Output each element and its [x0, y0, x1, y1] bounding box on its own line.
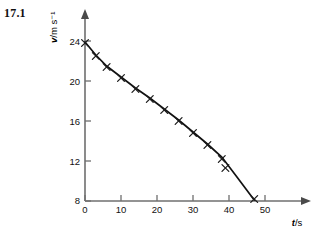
y-tick-label-12: 12	[69, 156, 80, 167]
y-axis-tick-labels: 24 20 16 12 8	[69, 36, 80, 206]
x-tick-label-0: 0	[82, 204, 87, 215]
best-fit-line	[85, 42, 254, 200]
x-tick-label-20: 20	[152, 204, 163, 215]
y-tick-label-20: 20	[69, 76, 80, 87]
y-axis-title: v/m s⁻¹	[48, 12, 59, 43]
y-tick-label-16: 16	[69, 116, 80, 127]
x-axis-title: t/s	[292, 217, 303, 228]
x-axis-tick-labels: 0 10 20 30 40 50	[82, 204, 270, 215]
x-axis-arrow-icon	[301, 197, 311, 205]
x-tick-label-50: 50	[260, 204, 271, 215]
y-axis-ticks	[85, 41, 91, 201]
data-point-marker	[92, 53, 99, 60]
figure-root: 17.1 24 20 16 12 8	[0, 0, 322, 232]
velocity-time-chart: 24 20 16 12 8 0 10 20 30 40 50 t/s	[0, 0, 322, 232]
data-point-markers	[82, 40, 258, 203]
data-point-marker	[222, 165, 229, 172]
y-tick-label-24: 24	[69, 36, 80, 47]
x-tick-label-40: 40	[224, 204, 235, 215]
y-axis-title-unit: /m s⁻¹	[48, 12, 59, 38]
y-tick-label-8: 8	[75, 195, 80, 206]
data-point-marker	[204, 142, 211, 149]
y-axis-arrow-icon	[81, 9, 89, 19]
x-tick-label-10: 10	[116, 204, 127, 215]
x-tick-label-30: 30	[188, 204, 199, 215]
x-axis-ticks	[85, 195, 265, 201]
x-axis-title-unit: /s	[295, 217, 303, 228]
